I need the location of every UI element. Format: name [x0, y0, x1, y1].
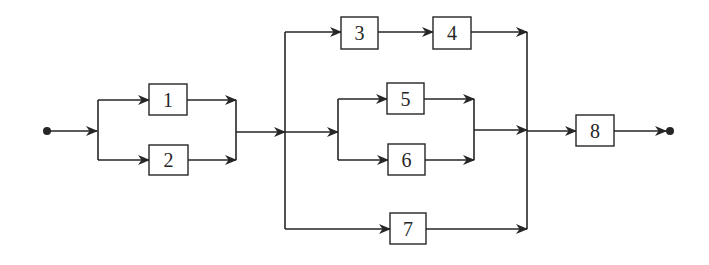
block-7-label: 7	[403, 218, 413, 240]
block-2-label: 2	[164, 149, 174, 171]
block-2: 2	[149, 145, 188, 175]
block-3: 3	[341, 17, 378, 49]
block-4: 4	[433, 17, 471, 49]
block-6-label: 6	[402, 149, 412, 171]
block-3-label: 3	[355, 22, 365, 44]
reliability-block-diagram: 1 2 3 4 5 6 7 8	[0, 0, 709, 265]
block-8: 8	[576, 115, 614, 146]
block-5: 5	[387, 83, 424, 114]
block-5-label: 5	[401, 88, 411, 110]
block-7: 7	[390, 213, 426, 244]
block-6: 6	[388, 144, 425, 175]
block-4-label: 4	[447, 22, 457, 44]
block-8-label: 8	[590, 120, 600, 142]
block-1-label: 1	[163, 89, 173, 111]
block-1: 1	[149, 84, 187, 115]
output-terminal	[666, 127, 674, 135]
